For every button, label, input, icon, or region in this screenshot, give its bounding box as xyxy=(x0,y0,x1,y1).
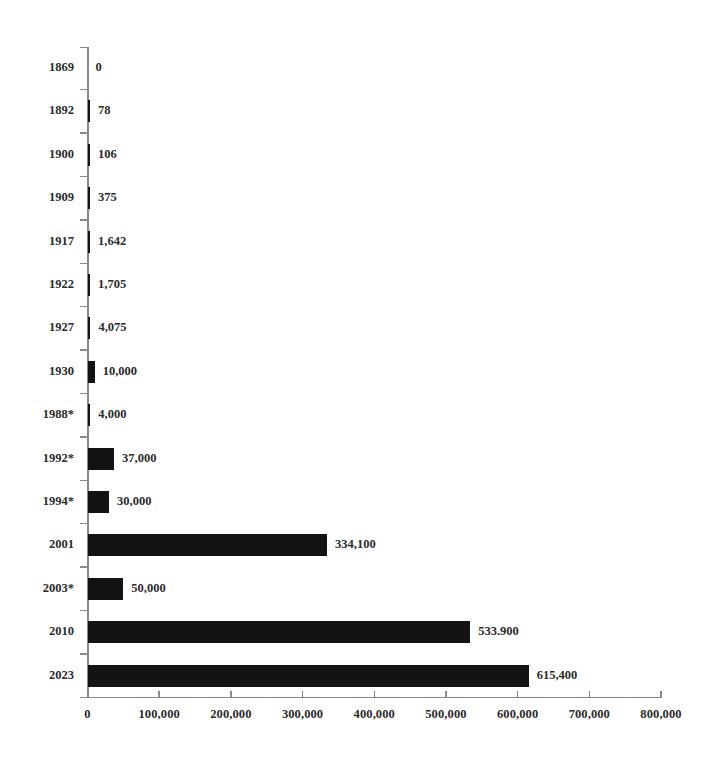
x-tick-0 xyxy=(87,691,88,698)
category-label-1917: 1917 xyxy=(0,234,74,249)
y-tick-6 xyxy=(80,349,88,350)
category-label-1909: 1909 xyxy=(0,190,74,205)
bar-value-1927: 4,075 xyxy=(98,320,126,335)
bar-1992star xyxy=(88,448,115,470)
bar-1892 xyxy=(88,100,91,122)
bar-value-1994star: 30,000 xyxy=(117,494,151,509)
bar-value-2003star: 50,000 xyxy=(131,581,165,596)
x-tick-label-0: 0 xyxy=(84,707,90,722)
bar-chart: 0100,000200,000300,000400,000500,000600,… xyxy=(0,0,723,766)
x-tick-2 xyxy=(230,691,231,698)
category-label-1927: 1927 xyxy=(0,320,74,335)
y-tick-7 xyxy=(80,393,88,394)
y-tick-2 xyxy=(80,176,88,177)
bar-2003star xyxy=(88,578,124,600)
y-tick-1 xyxy=(80,132,88,133)
category-label-2001: 2001 xyxy=(0,537,74,552)
bar-value-1909: 375 xyxy=(98,190,117,205)
bar-1917 xyxy=(88,231,91,253)
y-tick-12 xyxy=(80,610,88,611)
category-label-1994star: 1994* xyxy=(0,494,74,509)
x-tick-label-8: 800,000 xyxy=(640,707,681,722)
y-tick-11 xyxy=(80,566,88,567)
bar-value-2010: 533.900 xyxy=(478,624,519,639)
y-tick-10 xyxy=(80,523,88,524)
bar-value-1900: 106 xyxy=(98,147,117,162)
y-tick-4 xyxy=(80,263,88,264)
category-label-1988star: 1988* xyxy=(0,407,74,422)
x-tick-label-6: 600,000 xyxy=(497,707,538,722)
x-tick-label-7: 700,000 xyxy=(569,707,610,722)
bar-1994star xyxy=(88,491,110,513)
category-label-1930: 1930 xyxy=(0,364,74,379)
x-tick-3 xyxy=(302,691,303,698)
category-label-1922: 1922 xyxy=(0,277,74,292)
bar-2010 xyxy=(88,621,471,643)
bar-2001 xyxy=(88,534,328,556)
bar-value-1917: 1,642 xyxy=(98,234,126,249)
bar-value-1988star: 4,000 xyxy=(98,407,126,422)
category-label-2023: 2023 xyxy=(0,668,74,683)
bar-1988star xyxy=(88,404,91,426)
category-label-1900: 1900 xyxy=(0,147,74,162)
x-tick-label-1: 100,000 xyxy=(139,707,180,722)
x-tick-8 xyxy=(660,691,661,698)
y-tick-8 xyxy=(80,436,88,437)
category-label-2003star: 2003* xyxy=(0,581,74,596)
category-label-1992star: 1992* xyxy=(0,451,74,466)
bar-1900 xyxy=(88,144,91,166)
category-label-1892: 1892 xyxy=(0,103,74,118)
y-tick-13 xyxy=(80,653,88,654)
y-tick-3 xyxy=(80,219,88,220)
bar-value-1892: 78 xyxy=(98,103,111,118)
bar-value-1992star: 37,000 xyxy=(122,451,156,466)
x-tick-label-2: 200,000 xyxy=(210,707,251,722)
bar-value-1930: 10,000 xyxy=(103,364,137,379)
bar-value-1922: 1,705 xyxy=(98,277,126,292)
bar-value-2023: 615,400 xyxy=(537,668,578,683)
bar-1922 xyxy=(88,274,91,296)
bar-1930 xyxy=(88,361,95,383)
plot-area: 0100,000200,000300,000400,000500,000600,… xyxy=(0,0,723,766)
y-tick-9 xyxy=(80,480,88,481)
y-axis-top-cap xyxy=(80,47,88,48)
y-tick-0 xyxy=(80,89,88,90)
x-tick-7 xyxy=(589,691,590,698)
y-tick-5 xyxy=(80,306,88,307)
x-tick-label-3: 300,000 xyxy=(282,707,323,722)
x-tick-label-5: 500,000 xyxy=(425,707,466,722)
bar-1927 xyxy=(88,317,91,339)
bar-2023 xyxy=(88,665,529,687)
x-tick-6 xyxy=(517,691,518,698)
x-tick-5 xyxy=(445,691,446,698)
x-tick-4 xyxy=(374,691,375,698)
bar-value-1869: 0 xyxy=(96,60,102,75)
bar-value-2001: 334,100 xyxy=(335,537,376,552)
category-label-1869: 1869 xyxy=(0,60,74,75)
bar-1909 xyxy=(88,187,91,209)
x-tick-label-4: 400,000 xyxy=(354,707,395,722)
category-label-2010: 2010 xyxy=(0,624,74,639)
x-tick-1 xyxy=(158,691,159,698)
